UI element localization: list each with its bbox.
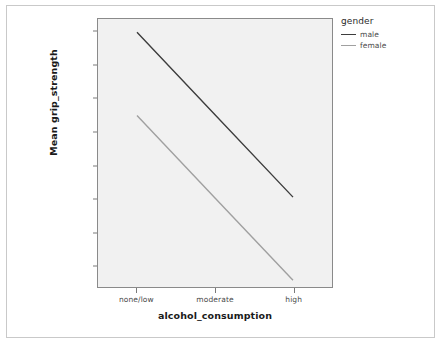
y-axis-title: Mean grip_strength (48, 38, 59, 168)
y-axis-tick-mark (93, 31, 97, 32)
x-axis-tick-label: moderate (196, 295, 233, 304)
y-axis-tick-mark (93, 232, 97, 233)
x-axis-tick-label: none/low (119, 295, 154, 304)
y-axis-tick-mark (93, 266, 97, 267)
y-axis-tick-mark (93, 64, 97, 65)
x-axis-tick-mark (215, 288, 216, 293)
y-axis-tick-mark (93, 165, 97, 166)
legend-entry-female: female (341, 40, 431, 50)
x-axis-tick-mark (294, 288, 295, 293)
legend-entries: malefemale (341, 29, 431, 50)
y-axis-ticks: 20.0018.0016.0014.0012.0010.008.006.00 (0, 0, 93, 349)
x-axis-tick-label: high (285, 295, 302, 304)
legend-entry-label: female (360, 41, 386, 50)
legend-line-swatch (341, 45, 356, 46)
legend-line-swatch (341, 34, 356, 35)
legend-entry-label: male (360, 30, 379, 39)
plot-area (97, 18, 333, 288)
series-line-male (137, 32, 293, 197)
x-axis-tick-mark (136, 288, 137, 293)
series-line-female (137, 116, 293, 281)
x-axis-title: alcohol_consumption (97, 310, 333, 321)
y-axis-tick-mark (93, 132, 97, 133)
legend: gender malefemale (341, 16, 431, 51)
plot-lines-svg (98, 19, 332, 287)
y-axis-tick-mark (93, 98, 97, 99)
legend-entry-male: male (341, 29, 431, 39)
y-axis-tick-mark (93, 199, 97, 200)
profile-plot-figure: 20.0018.0016.0014.0012.0010.008.006.00 M… (0, 0, 446, 349)
legend-title: gender (341, 16, 431, 26)
